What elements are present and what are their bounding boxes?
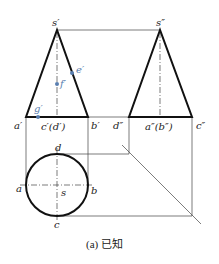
label-g-prime: g′: [34, 103, 43, 114]
label-a-prime: a′: [14, 120, 23, 131]
front-view: s′ a′ c′(d′) b′ e′ f′ g′: [14, 17, 100, 132]
label-s-double-prime: s″: [156, 17, 165, 28]
label-a: a: [16, 183, 22, 194]
cone-projection-diagram: s′ a′ c′(d′) b′ e′ f′ g′ s″ d″ a″(b″) c″…: [0, 0, 219, 264]
label-f-prime: f′: [59, 78, 67, 89]
label-b: b: [91, 185, 97, 196]
label-e-prime: e′: [76, 64, 85, 75]
label-d-double-prime: d″: [113, 120, 123, 131]
label-c: c: [54, 219, 60, 230]
label-d: d: [55, 142, 61, 153]
label-s: s: [61, 187, 66, 198]
point-f-marker: [55, 82, 59, 86]
point-e-marker: [70, 71, 74, 75]
label-s-prime: s′: [52, 17, 60, 28]
label-a-b-double-prime: a″(b″): [145, 121, 173, 132]
point-g-marker: [36, 115, 40, 119]
figure-caption: (a) 已知: [86, 237, 123, 251]
side-view: s″ d″ a″(b″) c″: [113, 17, 206, 132]
label-c-double-prime: c″: [196, 120, 206, 131]
side-cone-triangle: [129, 30, 192, 117]
label-c-prime-d-prime: c′(d′): [41, 121, 65, 132]
label-b-prime: b′: [91, 120, 100, 131]
top-view: d a s b c: [16, 142, 97, 230]
miter-45-line: [122, 145, 201, 224]
